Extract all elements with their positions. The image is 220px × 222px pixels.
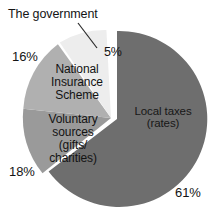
- slice-label-voluntary-sources: Voluntary sources (gifts/ charities): [30, 113, 116, 165]
- slice-percent-voluntary-sources: 18%: [9, 165, 35, 179]
- slice-percent-national-insurance: 16%: [12, 50, 38, 64]
- slice-percent-the-government: 5%: [104, 46, 122, 60]
- slice-percent-local-taxes: 61%: [175, 186, 201, 200]
- pie-chart-figure: The government 5% 16% National Insurance…: [0, 0, 220, 222]
- slice-callout-label-the-government: The government: [8, 8, 98, 22]
- slice-label-local-taxes: Local taxes (rates): [127, 105, 199, 130]
- slice-label-national-insurance: National Insurance Scheme: [38, 63, 116, 102]
